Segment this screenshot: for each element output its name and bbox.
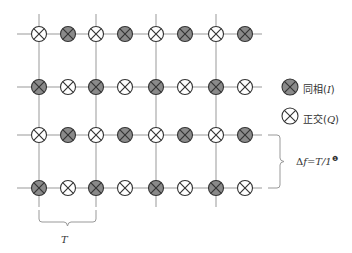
legend-label-inphase: 同相(I) (303, 81, 335, 96)
inphase-symbol-icon (89, 80, 104, 95)
legend-inphase-icon (282, 79, 298, 95)
quadrature-symbol-icon (32, 128, 47, 143)
ofdm-time-frequency-grid (0, 0, 352, 253)
inphase-symbol-icon (32, 80, 47, 95)
quadrature-symbol-icon (61, 80, 76, 95)
quadrature-symbol-icon (238, 181, 253, 196)
inphase-symbol-icon (178, 128, 193, 143)
quadrature-symbol-icon (209, 128, 224, 143)
quadrature-symbol-icon (32, 27, 47, 42)
symbol-period-label: T (61, 234, 68, 245)
quadrature-symbol-icon (89, 128, 104, 143)
frequency-spacing-brace (268, 135, 284, 188)
quadrature-symbol-icon (61, 181, 76, 196)
quadrature-symbol-icon (149, 27, 164, 42)
quadrature-symbol-icon (209, 27, 224, 42)
inphase-symbol-icon (149, 181, 164, 196)
symbol-period-brace (39, 210, 96, 226)
quadrature-symbol-icon (238, 80, 253, 95)
quadrature-symbol-icon (89, 27, 104, 42)
grid-lines (17, 14, 262, 207)
inphase-symbol-icon (118, 27, 133, 42)
quadrature-symbol-icon (149, 128, 164, 143)
quadrature-symbol-icon (178, 181, 193, 196)
inphase-symbol-icon (209, 80, 224, 95)
grid-symbols (32, 27, 253, 196)
inphase-symbol-icon (32, 181, 47, 196)
inphase-symbol-icon (238, 27, 253, 42)
legend-label-quadrature: 正交(Q) (303, 111, 339, 126)
frequency-spacing-formula: Δf=T/1❶ (296, 155, 338, 167)
inphase-symbol-icon (209, 181, 224, 196)
inphase-symbol-icon (118, 128, 133, 143)
inphase-symbol-icon (89, 181, 104, 196)
footnote-marker: ❶ (332, 155, 338, 163)
quadrature-symbol-icon (178, 80, 193, 95)
inphase-symbol-icon (149, 80, 164, 95)
inphase-symbol-icon (61, 128, 76, 143)
inphase-symbol-icon (61, 27, 76, 42)
inphase-symbol-icon (238, 128, 253, 143)
legend-quadrature-icon (282, 108, 298, 124)
legend-icons (282, 79, 298, 124)
inphase-symbol-icon (178, 27, 193, 42)
quadrature-symbol-icon (118, 181, 133, 196)
quadrature-symbol-icon (118, 80, 133, 95)
